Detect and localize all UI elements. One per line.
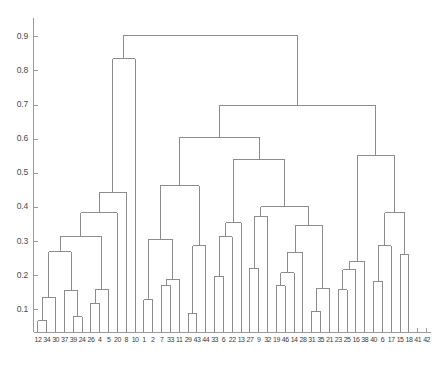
dendrogram-merge-n1 [38,321,47,332]
dendrogram-merge-n12 [144,300,153,332]
dendrogram-merge-n38 [400,254,409,332]
x-tick-label: 21 [326,336,333,344]
y-tick-label: 0.6 [2,134,28,143]
x-tick-label: 41 [414,336,421,344]
x-tick-label: 11 [176,336,182,344]
dendrogram-merge-n11 [113,59,135,332]
dendrogram-merge-n28 [316,288,329,332]
x-tick-label: 30 [52,336,59,344]
dendrogram-merge-n13 [162,285,171,332]
dendrogram-tree [38,35,409,332]
x-tick-label: 9 [257,336,260,344]
x-tick-label: 15 [397,336,404,344]
dendrogram-merge-n33 [338,290,347,332]
x-tick-label: 19 [273,336,280,344]
y-tick-label: 0.1 [2,305,28,314]
y-tick-label: 0.7 [2,100,28,109]
dendrogram-merge-n7 [95,289,108,332]
x-tick-label: 40 [370,336,377,344]
dendrogram-plot [0,0,440,370]
x-tick-label: 16 [353,336,360,344]
dendrogram-merge-n40 [357,155,395,261]
x-tick-label: 44 [202,336,209,344]
dendrogram-merge-n16 [188,314,197,332]
dendrogram-merge-n15 [148,240,172,300]
y-tick-label: 0.2 [2,271,28,280]
dendrogram-merge-n2 [42,297,55,332]
x-tick-label: 33 [211,336,218,344]
x-tick-label: 46 [282,336,289,344]
x-tick-label: 39 [70,336,77,344]
x-tick-label: 5 [107,336,110,344]
x-tick-label: 6 [222,336,225,344]
dendrogram-merge-n3 [73,317,82,332]
x-tick-label: 25 [344,336,351,344]
dendrogram-figure: 0.90.80.70.60.50.40.30.20.1 123430373924… [0,0,440,370]
dendrogram-merge-n35 [349,261,364,332]
dendrogram-merge-n9 [81,213,117,332]
x-tick-label: 43 [194,336,201,344]
x-axis-tick-labels: 1234303739242645208101273311294344336221… [0,336,440,350]
x-tick-label: 1 [142,336,145,344]
y-tick-label: 0.9 [2,32,28,41]
x-tick-label: 20 [114,336,121,344]
x-tick-label: 8 [125,336,128,344]
dendrogram-merge-n6 [91,303,100,332]
y-tick-label: 0.5 [2,168,28,177]
x-tick-label: 23 [335,336,342,344]
y-tick-label: 0.8 [2,66,28,75]
dendrogram-merge-n42 [124,35,298,105]
y-tick-label: 0.3 [2,237,28,246]
dendrogram-merge-n29 [295,226,323,288]
x-tick-label: 7 [160,336,163,344]
dendrogram-merge-n22 [250,268,259,332]
dendrogram-merge-n27 [312,311,321,332]
x-tick-label: 35 [317,336,324,344]
dendrogram-merge-n17 [193,246,206,332]
dendrogram-merge-n8 [60,236,102,289]
x-tick-label: 22 [229,336,236,344]
x-tick-label: 17 [388,336,395,344]
y-tick-label: 0.4 [2,202,28,211]
x-tick-label: 27 [247,336,254,344]
x-tick-label: 32 [264,336,271,344]
x-tick-label: 26 [88,336,95,344]
x-tick-label: 37 [61,336,68,344]
dendrogram-merge-n21 [226,223,241,332]
x-tick-label: 12 [35,336,42,344]
dendrogram-merge-n39 [385,213,405,255]
dendrogram-merge-n30 [261,207,309,226]
x-tick-label: 2 [151,336,154,344]
x-tick-label: 14 [291,336,298,344]
dendrogram-merge-n36 [374,281,383,332]
x-tick-label: 42 [423,336,430,344]
x-tick-label: 31 [308,336,315,344]
x-tick-label: 18 [406,336,413,344]
x-tick-label: 34 [43,336,50,344]
dendrogram-merge-n31 [233,160,285,223]
dendrogram-merge-n25 [281,273,294,332]
dendrogram-merge-n4 [64,290,77,332]
dendrogram-merge-n26 [287,252,302,332]
x-tick-label: 29 [185,336,192,344]
dendrogram-merge-n10 [99,192,126,332]
dendrogram-merge-n23 [254,216,267,332]
x-tick-label: 10 [132,336,139,344]
x-tick-label: 13 [238,336,245,344]
dendrogram-merge-n14 [166,279,179,332]
dendrogram-merge-n20 [219,237,232,332]
dendrogram-merge-n37 [378,246,391,332]
x-tick-label: 33 [167,336,174,344]
dendrogram-merge-n24 [276,286,285,332]
dendrogram-merge-n41 [219,105,375,155]
x-tick-label: 28 [300,336,307,344]
dendrogram-merge-n18 [160,186,199,246]
dendrogram-merge-n34 [343,270,356,332]
dendrogram-merge-n19 [215,276,224,332]
x-tick-label: 6 [381,336,384,344]
dendrogram-merge-n32 [180,137,259,185]
x-tick-label: 4 [98,336,101,344]
x-tick-label: 24 [79,336,86,344]
x-tick-label: 38 [361,336,368,344]
